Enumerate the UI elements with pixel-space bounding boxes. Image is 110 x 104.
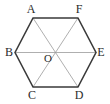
center-label-o: O: [44, 52, 52, 64]
vertex-label-c: C: [28, 88, 36, 102]
vertex-label-e: E: [97, 45, 104, 59]
vertex-label-d: D: [75, 88, 84, 102]
hexagon-diagram-canvas: A F E D C B O: [0, 0, 110, 104]
vertex-label-f: F: [76, 2, 83, 16]
vertex-label-a: A: [27, 2, 36, 16]
vertex-label-b: B: [5, 45, 13, 59]
hexagon-figure: A F E D C B O: [0, 0, 110, 104]
